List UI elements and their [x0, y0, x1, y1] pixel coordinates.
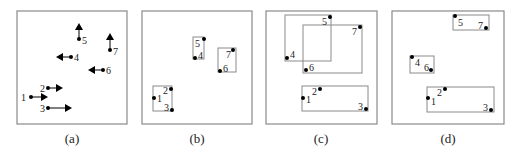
point-dot — [170, 108, 174, 112]
point-label: 6 — [223, 63, 228, 74]
panel-a: 1234567(a) — [17, 11, 127, 146]
panel-caption: (b) — [189, 131, 204, 146]
point-dot — [77, 37, 81, 41]
point-dot — [231, 48, 235, 52]
point-label: 7 — [478, 20, 483, 31]
point-label: 3 — [40, 103, 45, 114]
point-label: 3 — [358, 101, 363, 112]
point-label: 5 — [82, 35, 87, 46]
point-dot — [285, 56, 289, 60]
point-dot — [46, 86, 50, 90]
point-label: 1 — [431, 96, 436, 107]
point-dot — [101, 68, 105, 72]
figure-canvas: 1234567(a)1234567(b)1234567(c)1234567(d) — [0, 0, 520, 156]
point-label: 2 — [163, 85, 168, 96]
point-label: 6 — [424, 62, 429, 73]
point-label: 5 — [458, 17, 463, 28]
point-dot — [304, 68, 308, 72]
panel-caption: (c) — [314, 131, 328, 146]
panel-b: 1234567(b) — [142, 11, 252, 146]
arrow-right-icon — [48, 104, 72, 112]
point-label: 1 — [306, 94, 311, 105]
panel-caption: (d) — [440, 131, 455, 146]
point-label: 4 — [290, 49, 295, 60]
panel-c: 1234567(c) — [266, 11, 377, 146]
point-label: 2 — [437, 87, 442, 98]
point-dot — [46, 106, 50, 110]
point-label: 2 — [40, 83, 45, 94]
point-label: 3 — [164, 102, 169, 113]
point-label: 6 — [106, 65, 111, 76]
point-dot — [169, 87, 173, 91]
arrow-right-icon — [48, 84, 63, 92]
point-dot — [358, 25, 362, 29]
point-label: 3 — [483, 102, 488, 113]
point-dot — [489, 108, 493, 112]
point-dot — [453, 14, 457, 18]
point-dot — [318, 87, 322, 91]
point-label: 2 — [312, 86, 317, 97]
point-label: 7 — [352, 26, 357, 37]
point-label: 7 — [113, 46, 118, 57]
point-label: 4 — [198, 50, 203, 61]
point-dot — [443, 87, 447, 91]
point-label: 1 — [157, 93, 162, 104]
point-label: 5 — [195, 38, 200, 49]
point-label: 7 — [226, 49, 231, 60]
arrow-left-icon — [56, 53, 71, 61]
panel-caption: (a) — [65, 131, 79, 146]
point-dot — [29, 95, 33, 99]
point-label: 4 — [415, 57, 420, 68]
point-dot — [193, 56, 197, 60]
point-dot — [218, 69, 222, 73]
point-dot — [301, 96, 305, 100]
point-label: 5 — [322, 16, 327, 27]
point-label: 1 — [21, 92, 26, 103]
point-dot — [69, 55, 73, 59]
point-dot — [328, 15, 332, 19]
panel-d: 1234567(d) — [392, 11, 504, 146]
point-dot — [152, 96, 156, 100]
point-dot — [426, 96, 430, 100]
point-dot — [202, 37, 206, 41]
arrow-right-icon — [31, 93, 48, 101]
point-dot — [484, 26, 488, 30]
point-dot — [410, 55, 414, 59]
point-dot — [429, 68, 433, 72]
point-dot — [364, 107, 368, 111]
arrow-left-icon — [88, 66, 103, 74]
point-label: 4 — [74, 52, 79, 63]
point-dot — [108, 48, 112, 52]
point-label: 6 — [309, 62, 314, 73]
